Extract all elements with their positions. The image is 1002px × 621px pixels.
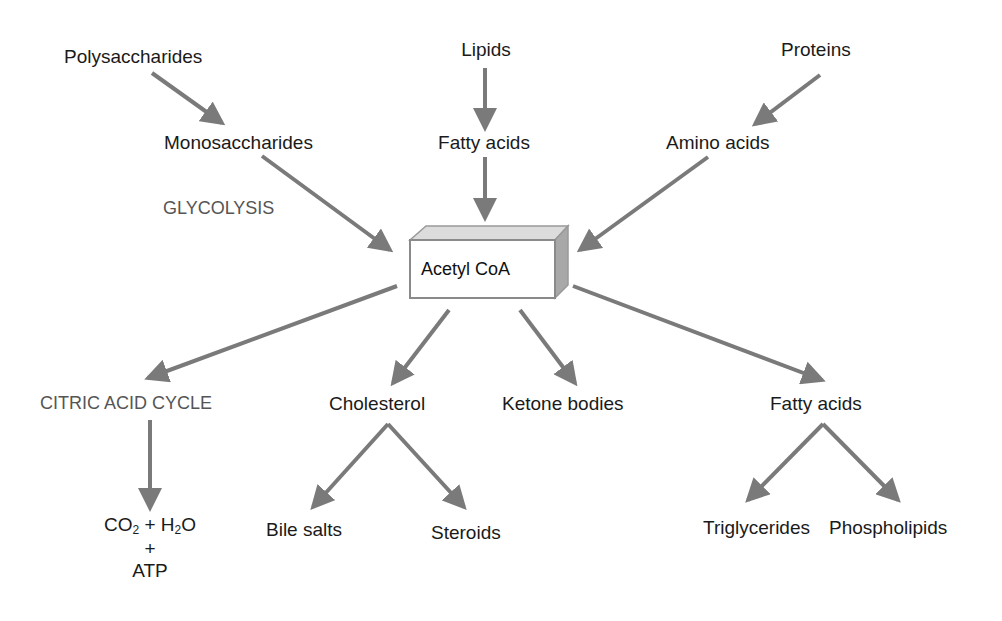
node-polysaccharides: Polysaccharides xyxy=(64,47,202,66)
node-citric-acid-cycle: CITRIC ACID CYCLE xyxy=(40,394,212,412)
node-acetyl-coa: Acetyl CoA xyxy=(421,259,510,280)
arrow-acetylcoa-to-citric-acid-cycle xyxy=(148,286,397,378)
arrow-cholesterol-to-steroids xyxy=(388,424,464,507)
node-fatty-acids-output: Fatty acids xyxy=(770,394,862,413)
arrow-acetylcoa-to-ketone-bodies xyxy=(520,310,575,383)
arrow-acetylcoa-to-fatty-acids xyxy=(573,286,822,380)
arrow-proteins-to-amino-acids xyxy=(755,75,820,124)
citric-acid-products: CO2 + H2O + ATP xyxy=(104,514,196,581)
node-fatty-acids-input: Fatty acids xyxy=(438,133,530,152)
arrow-acetylcoa-to-cholesterol xyxy=(393,310,449,383)
node-lipids: Lipids xyxy=(461,40,511,59)
node-steroids: Steroids xyxy=(431,523,501,542)
arrow-fatty-acids-to-triglycerides xyxy=(748,424,823,500)
process-glycolysis: GLYCOLYSIS xyxy=(163,199,274,217)
arrow-cholesterol-to-bile-salts xyxy=(313,424,388,507)
node-cholesterol: Cholesterol xyxy=(329,394,425,413)
node-monosaccharides: Monosaccharides xyxy=(164,133,313,152)
node-amino-acids: Amino acids xyxy=(666,133,770,152)
arrow-amino-acids-to-acetylcoa xyxy=(580,157,708,250)
arrow-fatty-acids-to-phospholipids xyxy=(823,424,898,500)
node-ketone-bodies: Ketone bodies xyxy=(502,394,624,413)
arrow-polysaccharides-to-monosaccharides xyxy=(152,73,222,123)
node-phospholipids: Phospholipids xyxy=(829,518,947,537)
node-triglycerides: Triglycerides xyxy=(703,518,810,537)
arrow-monosaccharides-to-acetylcoa xyxy=(262,156,390,250)
node-bile-salts: Bile salts xyxy=(266,520,342,539)
node-proteins: Proteins xyxy=(781,40,851,59)
